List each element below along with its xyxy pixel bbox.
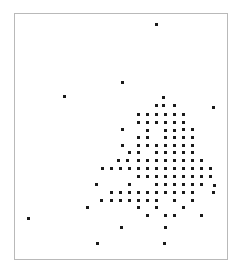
scatter-point	[155, 183, 158, 186]
scatter-point	[182, 121, 185, 124]
scatter-point	[164, 113, 167, 116]
scatter-point	[182, 191, 185, 194]
scatter-point	[164, 136, 167, 139]
scatter-point	[191, 191, 194, 194]
scatter-point	[101, 167, 104, 170]
scatter-point	[173, 183, 176, 186]
scatter-point	[146, 121, 149, 124]
scatter-point	[63, 95, 66, 98]
scatter-point	[155, 113, 158, 116]
scatter-point	[120, 226, 123, 229]
scatter-point	[155, 191, 158, 194]
scatter-point	[146, 144, 149, 147]
scatter-point	[146, 167, 149, 170]
scatter-point	[173, 175, 176, 178]
scatter-point	[164, 151, 167, 154]
scatter-point	[119, 167, 122, 170]
scatter-point	[191, 128, 194, 131]
scatter-point	[137, 167, 140, 170]
scatter-point	[191, 183, 194, 186]
scatter-point	[182, 159, 185, 162]
scatter-point	[191, 136, 194, 139]
scatter-point	[209, 175, 212, 178]
scatter-point	[173, 214, 176, 217]
scatter-point	[137, 144, 140, 147]
scatter-point	[162, 104, 165, 107]
scatter-point	[173, 199, 176, 202]
scatter-point	[182, 183, 185, 186]
scatter-point	[110, 167, 113, 170]
scatter-point	[155, 121, 158, 124]
scatter-point	[128, 167, 131, 170]
scatter-point	[128, 199, 131, 202]
scatter-point	[117, 159, 120, 162]
scatter-point	[96, 242, 99, 245]
scatter-point	[146, 199, 149, 202]
scatter-point	[173, 159, 176, 162]
scatter-point	[173, 167, 176, 170]
scatter-point	[173, 191, 176, 194]
scatter-point	[164, 175, 167, 178]
scatter-point	[164, 191, 167, 194]
scatter-point	[191, 199, 194, 202]
scatter-point	[200, 183, 203, 186]
scatter-point	[137, 151, 140, 154]
scatter-point	[126, 159, 129, 162]
scatter-point	[119, 199, 122, 202]
scatter-point	[128, 183, 131, 186]
scatter-point	[173, 113, 176, 116]
scatter-point	[146, 175, 149, 178]
scatter-point	[146, 214, 149, 217]
scatter-plot-figure	[0, 0, 243, 273]
scatter-point	[137, 206, 140, 209]
scatter-point	[173, 151, 176, 154]
scatter-point	[86, 206, 89, 209]
scatter-point	[191, 175, 194, 178]
scatter-point	[146, 191, 149, 194]
scatter-point	[182, 128, 185, 131]
scatter-point	[121, 144, 124, 147]
scatter-point	[121, 81, 124, 84]
scatter-point	[173, 104, 176, 107]
scatter-point	[173, 129, 176, 132]
scatter-point	[173, 144, 176, 147]
scatter-point	[155, 175, 158, 178]
scatter-point	[137, 136, 140, 139]
scatter-point	[146, 113, 149, 116]
scatter-point	[155, 151, 158, 154]
scatter-point	[173, 136, 176, 139]
scatter-point	[137, 113, 140, 116]
scatter-point	[155, 144, 158, 147]
scatter-point	[146, 129, 149, 132]
scatter-point	[182, 151, 185, 154]
scatter-point	[95, 183, 98, 186]
scatter-point	[173, 121, 176, 124]
scatter-point	[155, 23, 158, 26]
scatter-point	[110, 199, 113, 202]
scatter-point	[182, 175, 185, 178]
scatter-point	[163, 242, 166, 245]
scatter-point	[182, 113, 185, 116]
scatter-point	[146, 136, 149, 139]
scatter-point	[146, 159, 149, 162]
scatter-point	[209, 167, 212, 170]
scatter-point	[164, 144, 167, 147]
scatter-point	[164, 167, 167, 170]
scatter-plot-area	[0, 0, 243, 273]
scatter-point	[155, 167, 158, 170]
scatter-point	[121, 128, 124, 131]
scatter-point	[137, 175, 140, 178]
scatter-point	[155, 159, 158, 162]
scatter-point	[164, 226, 167, 229]
scatter-point	[200, 159, 203, 162]
scatter-point	[137, 121, 140, 124]
scatter-point	[182, 167, 185, 170]
scatter-point	[155, 199, 158, 202]
scatter-point	[191, 159, 194, 162]
scatter-point	[164, 159, 167, 162]
scatter-point	[191, 151, 194, 154]
scatter-point	[137, 191, 140, 194]
scatter-point	[110, 191, 113, 194]
scatter-point	[164, 129, 167, 132]
scatter-point	[128, 191, 131, 194]
